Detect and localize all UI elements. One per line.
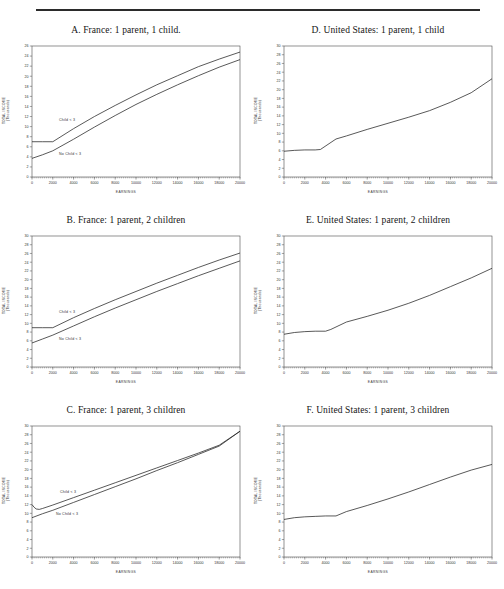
svg-text:22: 22 [24,459,28,463]
svg-text:16: 16 [276,485,280,489]
svg-text:16: 16 [276,295,280,299]
svg-text:0: 0 [278,365,280,369]
svg-text:0: 0 [26,555,28,559]
svg-text:8: 8 [278,330,280,334]
panel-C: C. France: 1 parent, 3 children 02468101… [0,398,252,589]
series-line [32,52,240,142]
svg-text:6: 6 [26,145,28,149]
svg-text:6000: 6000 [342,561,350,565]
svg-text:4: 4 [278,538,280,542]
svg-text:20: 20 [276,88,280,92]
svg-text:20: 20 [24,278,28,282]
svg-text:18000: 18000 [214,371,224,375]
svg-text:18000: 18000 [466,181,476,185]
y-axis-label: TOTAL INCOME(Thousands) [254,94,263,126]
svg-text:18: 18 [276,287,280,291]
y-axis-label-line: (Thousands) [258,94,262,126]
plot-F: 0246810121416182022242628300200040006000… [252,418,504,583]
svg-text:0: 0 [283,371,285,375]
svg-text:10000: 10000 [383,181,393,185]
svg-text:10: 10 [276,132,280,136]
svg-text:4000: 4000 [322,561,330,565]
svg-text:4000: 4000 [70,561,78,565]
svg-text:10000: 10000 [383,371,393,375]
svg-text:8000: 8000 [111,561,119,565]
svg-text:6: 6 [278,149,280,153]
y-axis-label-line: (Thousands) [258,284,262,316]
svg-text:12: 12 [276,503,280,507]
svg-text:0: 0 [278,555,280,559]
svg-text:20: 20 [24,468,28,472]
x-axis-label: EARNINGS [0,190,252,194]
svg-text:8000: 8000 [111,181,119,185]
svg-text:0: 0 [283,181,285,185]
svg-text:22: 22 [276,269,280,273]
chart-svg-A: 0246810121416182022242602000400060008000… [0,38,252,203]
svg-text:14: 14 [24,494,28,498]
svg-text:6000: 6000 [90,371,98,375]
svg-text:16000: 16000 [445,181,455,185]
svg-text:18: 18 [24,477,28,481]
annotation-child-under-3: Child < 3 [59,118,75,122]
y-axis-label: TOTAL INCOME(Thousands) [254,284,263,316]
svg-text:24: 24 [276,71,280,75]
x-axis-label: EARNINGS [0,570,252,574]
svg-text:12000: 12000 [152,561,162,565]
panel-title-A: A. France: 1 parent, 1 child. [0,25,252,35]
svg-text:4000: 4000 [70,181,78,185]
series-line [32,60,240,159]
panel-title-E: E. United States: 1 parent, 2 children [252,215,504,225]
annotation-child-under-3: Child < 3 [60,490,76,494]
svg-text:4: 4 [278,158,280,162]
svg-text:16000: 16000 [445,371,455,375]
panel-E: E. United States: 1 parent, 2 children 0… [252,208,504,398]
svg-text:14000: 14000 [173,371,183,375]
svg-text:2000: 2000 [301,561,309,565]
svg-text:16000: 16000 [193,181,203,185]
svg-text:0: 0 [31,561,33,565]
svg-text:18: 18 [276,477,280,481]
svg-text:12000: 12000 [152,181,162,185]
annotation-no-child-under-3: No Child < 3 [59,337,81,341]
y-axis-label: TOTAL INCOME(Thousands) [2,474,11,506]
svg-text:4000: 4000 [322,181,330,185]
svg-text:16: 16 [276,105,280,109]
svg-text:20: 20 [24,75,28,79]
svg-text:10000: 10000 [131,561,141,565]
svg-text:12: 12 [24,313,28,317]
svg-text:6: 6 [278,529,280,533]
svg-text:6000: 6000 [90,561,98,565]
svg-text:12000: 12000 [152,371,162,375]
svg-text:20000: 20000 [235,371,245,375]
svg-text:14000: 14000 [425,561,435,565]
svg-text:2: 2 [26,357,28,361]
svg-text:2000: 2000 [301,181,309,185]
svg-text:0: 0 [283,561,285,565]
chart-svg-C: 0246810121416182022242628300200040006000… [0,418,252,583]
svg-text:18000: 18000 [214,561,224,565]
svg-text:12: 12 [276,123,280,127]
svg-text:4: 4 [26,538,28,542]
svg-text:20000: 20000 [487,561,497,565]
svg-text:12000: 12000 [404,561,414,565]
svg-text:22: 22 [24,269,28,273]
panel-A: A. France: 1 parent, 1 child. 0246810121… [0,18,252,208]
svg-text:24: 24 [24,451,28,455]
svg-text:16000: 16000 [445,561,455,565]
svg-text:10000: 10000 [383,561,393,565]
svg-text:30: 30 [24,234,28,238]
x-axis-label: EARNINGS [252,190,504,194]
svg-text:24: 24 [276,261,280,265]
svg-text:8000: 8000 [111,371,119,375]
svg-text:6: 6 [26,339,28,343]
svg-text:26: 26 [276,442,280,446]
y-axis-label: TOTAL INCOME(Thousands) [2,94,11,126]
plot-A: 0246810121416182022242602000400060008000… [0,38,252,203]
header-rule [36,9,480,11]
svg-text:20000: 20000 [487,371,497,375]
y-axis-label-line: (Thousands) [258,474,262,506]
svg-text:20000: 20000 [235,561,245,565]
svg-text:10: 10 [24,512,28,516]
svg-text:16000: 16000 [193,371,203,375]
y-axis-label-line: (Thousands) [6,94,10,126]
